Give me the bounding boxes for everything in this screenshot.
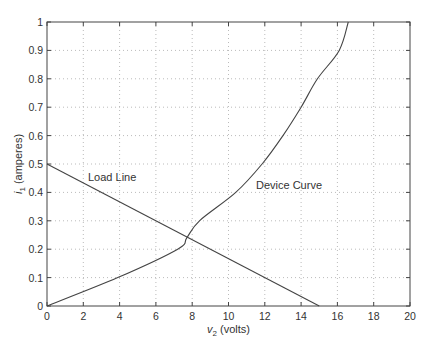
y-axis-label: i1 (amperes) (12, 134, 27, 194)
x-tick-label: 4 (117, 310, 123, 322)
y-tick-label: 0.9 (28, 44, 43, 56)
x-tick-label: 12 (259, 310, 271, 322)
y-tick-label: 0.3 (28, 215, 43, 227)
ticks: 0246810121416182000.10.20.30.40.50.60.70… (28, 16, 416, 322)
x-tick-label: 18 (368, 310, 380, 322)
x-tick-label: 8 (189, 310, 195, 322)
y-tick-label: 0.6 (28, 130, 43, 142)
grid-lines (47, 22, 410, 306)
x-tick-label: 0 (44, 310, 50, 322)
y-tick-label: 0.5 (28, 158, 43, 170)
x-tick-label: 6 (153, 310, 159, 322)
annotations: Load LineDevice Curve (88, 171, 322, 191)
y-tick-label: 0.2 (28, 243, 43, 255)
x-tick-label: 16 (332, 310, 344, 322)
y-tick-label: 0 (37, 300, 43, 312)
y-tick-label: 0.7 (28, 101, 43, 113)
device-curve-label: Device Curve (256, 179, 322, 191)
y-tick-label: 0.4 (28, 186, 43, 198)
x-tick-label: 2 (80, 310, 86, 322)
x-tick-label: 20 (404, 310, 416, 322)
y-tick-label: 1 (37, 16, 43, 28)
x-tick-label: 14 (295, 310, 307, 322)
load-line-chart: 0246810121416182000.10.20.30.40.50.60.70… (0, 0, 427, 340)
y-tick-label: 0.1 (28, 272, 43, 284)
load-line-label: Load Line (88, 171, 136, 183)
x-tick-label: 10 (223, 310, 235, 322)
y-tick-label: 0.8 (28, 73, 43, 85)
x-axis-label: v2 (volts) (207, 323, 250, 338)
